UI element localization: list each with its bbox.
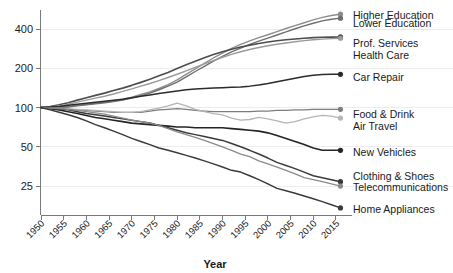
series-line <box>41 108 340 182</box>
y-tick-label: 25 <box>21 180 33 192</box>
series-labels-group: Higher EducationLower EducationProf. Ser… <box>353 9 448 215</box>
x-tick-label: 2005 <box>273 218 296 241</box>
y-tick-label: 50 <box>21 141 33 153</box>
series-line <box>41 74 340 107</box>
y-tick-label: 400 <box>15 23 33 35</box>
y-ticks-group: 4002001005025 <box>15 23 41 192</box>
x-ticks-group: 1950195519601965197019751980198519901995… <box>24 215 342 240</box>
series-group <box>41 12 343 211</box>
series-label[interactable]: Telecommunications <box>353 181 448 193</box>
series-label[interactable]: Car Repair <box>353 71 404 83</box>
price-index-line-chart: 4002001005025 19501955196019651970197519… <box>0 0 453 273</box>
series-end-marker <box>338 36 343 41</box>
series-line <box>41 108 340 208</box>
x-axis-title: Year <box>203 258 227 270</box>
series-label[interactable]: Health Care <box>353 49 409 61</box>
series-label[interactable]: New Vehicles <box>353 146 416 158</box>
series-end-marker <box>338 72 343 77</box>
x-tick-label: 1970 <box>114 218 137 241</box>
series-label[interactable]: Air Travel <box>353 120 397 132</box>
series-end-marker <box>338 107 343 112</box>
series-label[interactable]: Prof. Services <box>353 37 418 49</box>
chart-container: 4002001005025 19501955196019651970197519… <box>0 0 453 273</box>
series-end-marker <box>338 16 343 21</box>
y-tick-label: 100 <box>15 102 33 114</box>
series-label[interactable]: Home Appliances <box>353 203 435 215</box>
x-tick-label: 2015 <box>319 218 342 241</box>
x-tick-label: 1985 <box>182 218 205 241</box>
series-end-marker <box>338 116 343 121</box>
series-end-marker <box>338 183 343 188</box>
x-tick-label: 1990 <box>205 218 228 241</box>
x-tick-label: 1965 <box>92 218 115 241</box>
series-end-marker <box>338 148 343 153</box>
x-tick-label: 2000 <box>251 218 274 241</box>
x-tick-label: 1980 <box>160 218 183 241</box>
series-label[interactable]: Lower Education <box>353 17 431 29</box>
x-tick-label: 2010 <box>296 218 319 241</box>
x-tick-label: 1960 <box>69 218 92 241</box>
y-tick-label: 200 <box>15 62 33 74</box>
x-tick-label: 1955 <box>46 218 69 241</box>
x-tick-label: 1995 <box>228 218 251 241</box>
x-tick-label: 1950 <box>24 218 47 241</box>
x-tick-label: 1975 <box>137 218 160 241</box>
series-end-marker <box>338 205 343 210</box>
series-label[interactable]: Food & Drink <box>353 108 415 120</box>
